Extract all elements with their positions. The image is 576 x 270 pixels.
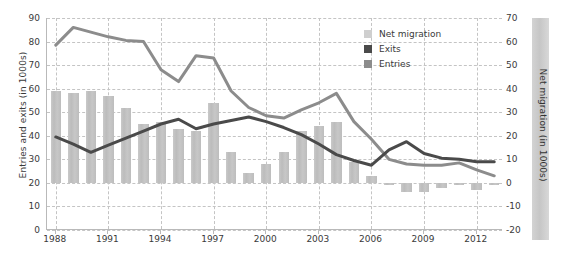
- legend-swatch-icon: [364, 45, 372, 53]
- y-axis-right-tick: 60: [506, 37, 530, 47]
- y-axis-right-tick: 0: [506, 178, 530, 188]
- x-axis-tick-label: 2003: [298, 234, 338, 244]
- y-axis-right-tick: 30: [506, 107, 530, 117]
- gridline-horizontal: [47, 230, 502, 231]
- legend-swatch-icon: [364, 60, 372, 68]
- y-axis-left-tick: 70: [16, 60, 40, 70]
- x-axis-tick-label: 1991: [87, 234, 127, 244]
- legend-item[interactable]: Exits: [364, 41, 441, 56]
- line-exits: [56, 117, 494, 165]
- legend-swatch-icon: [364, 30, 372, 38]
- x-axis-tick-label: 1988: [35, 234, 75, 244]
- y-axis-right-tick: 10: [506, 154, 530, 164]
- y-axis-left-tick: 30: [16, 154, 40, 164]
- legend-item-label: Entries: [379, 59, 410, 69]
- x-axis-tick-label: 2006: [350, 234, 390, 244]
- y-axis-right-title: Net migration (in 1000s): [538, 60, 548, 190]
- chart-legend: Net migrationExitsEntries: [364, 26, 441, 71]
- x-axis-tick-label: 1994: [140, 234, 180, 244]
- y-axis-left-tick: 40: [16, 131, 40, 141]
- legend-item-label: Net migration: [379, 29, 441, 39]
- y-axis-left-tick: 10: [16, 201, 40, 211]
- legend-item[interactable]: Net migration: [364, 26, 441, 41]
- legend-item-label: Exits: [379, 44, 401, 54]
- x-axis-tick-label: 1997: [193, 234, 233, 244]
- y-axis-right-tick: -20: [506, 225, 530, 235]
- y-axis-left-tick: 20: [16, 178, 40, 188]
- y-axis-left-tick: 80: [16, 37, 40, 47]
- legend-item[interactable]: Entries: [364, 56, 441, 71]
- y-axis-right-tick: -10: [506, 201, 530, 211]
- y-axis-left-tick: 60: [16, 84, 40, 94]
- y-axis-right-tick: 70: [506, 13, 530, 23]
- y-axis-right-tick: 20: [506, 131, 530, 141]
- y-axis-right-tick: 50: [506, 60, 530, 70]
- x-axis-tick-label: 2009: [403, 234, 443, 244]
- net-migration-chart: Entries and exits (in 1000s) Net migrati…: [0, 0, 576, 270]
- x-axis-tick-label: 2012: [456, 234, 496, 244]
- y-axis-left-tick: 90: [16, 13, 40, 23]
- x-axis-tick-label: 2000: [245, 234, 285, 244]
- y-axis-right-tick: 40: [506, 84, 530, 94]
- y-axis-left-tick: 50: [16, 107, 40, 117]
